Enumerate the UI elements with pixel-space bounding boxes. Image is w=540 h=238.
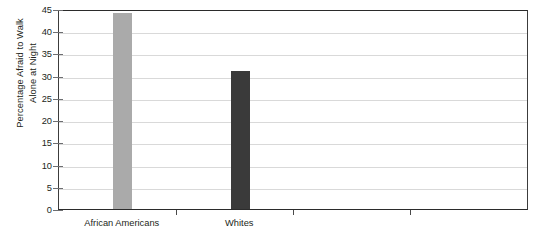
x-axis-tick-mark bbox=[410, 210, 411, 215]
y-axis-tick-label: 0 bbox=[26, 205, 52, 215]
x-axis-tick-mark bbox=[176, 210, 177, 215]
y-axis-tick-mark bbox=[53, 32, 63, 33]
y-axis-tick-label: 5 bbox=[26, 183, 52, 193]
y-axis-tick-label: 10 bbox=[26, 161, 52, 171]
y-axis-tick-mark bbox=[53, 121, 63, 122]
y-axis-tick-mark bbox=[53, 210, 63, 211]
y-axis-tick-label: 45 bbox=[26, 5, 52, 15]
y-axis-tick-label: 25 bbox=[26, 94, 52, 104]
y-axis-tick-mark bbox=[53, 77, 63, 78]
y-axis-tick-mark bbox=[53, 143, 63, 144]
y-axis-tick-label: 40 bbox=[26, 27, 52, 37]
y-axis-tick-mark bbox=[53, 188, 63, 189]
y-axis-tick-mark bbox=[53, 99, 63, 100]
y-axis-tick-label: 15 bbox=[26, 138, 52, 148]
x-axis-category-label: Whites bbox=[225, 218, 253, 229]
bar-african-americans bbox=[113, 13, 132, 209]
bars-layer bbox=[59, 11, 527, 209]
plot-area bbox=[58, 10, 528, 210]
bar-whites bbox=[231, 71, 250, 209]
y-axis-tick-mark bbox=[53, 166, 63, 167]
y-axis-tick-label: 20 bbox=[26, 116, 52, 126]
x-axis-category-label: African Americans bbox=[84, 218, 159, 229]
bar-chart: Percentage Afraid to Walk Alone at Night… bbox=[0, 0, 540, 238]
y-axis-tick-mark bbox=[53, 54, 63, 55]
y-axis-tick-label: 35 bbox=[26, 49, 52, 59]
y-axis-tick-mark bbox=[53, 10, 63, 11]
y-axis-tick-labels: 051015202530354045 bbox=[26, 10, 52, 210]
x-axis-tick-mark bbox=[293, 210, 294, 215]
y-axis-tick-label: 30 bbox=[26, 72, 52, 82]
